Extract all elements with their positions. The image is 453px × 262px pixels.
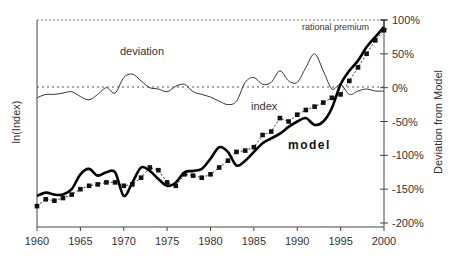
index-marker [321,100,326,105]
y-tick-label: -100% [392,149,424,161]
index-marker [269,129,274,134]
x-tick-label: 1970 [112,235,136,247]
index-marker [52,198,57,203]
index-marker [347,79,352,84]
index-marker [61,196,66,201]
index-marker [286,119,291,124]
y-tick-label: 0% [392,82,408,94]
index-marker [234,150,239,155]
plot-frame [37,20,384,227]
x-tick-label: 1990 [285,235,309,247]
y-tick-label: 50% [392,48,414,60]
index-marker [226,158,231,163]
index-marker [113,180,118,185]
index-marker [208,172,213,177]
x-tick-label: 1995 [328,235,352,247]
model-label: model [288,138,331,152]
rational-premium-label: rational premium [302,22,369,32]
index-marker [43,197,48,202]
x-tick-label: 1960 [25,235,49,247]
index-marker [312,104,317,109]
index-marker [35,204,40,209]
index-marker [260,133,265,138]
index-marker [356,65,361,70]
y-tick-label: 100% [392,14,420,26]
x-tick-label: 1975 [155,235,179,247]
index-marker [330,96,335,101]
index-line [37,30,384,206]
x-tick-label: 2000 [372,235,396,247]
x-tick-label: 1985 [242,235,266,247]
index-label: index [251,100,278,112]
series-layer [35,27,387,209]
right-axis-ticks: 100%50%0%-50%-100%-150%-200% [380,14,424,229]
left-axis-title: ln(Index) [10,101,22,144]
x-tick-label: 1980 [198,235,222,247]
model-line [37,27,384,196]
index-marker [69,192,74,197]
chart: 196019651970197519801985199019952000 100… [0,0,453,262]
index-marker [304,108,309,113]
index-marker [78,187,83,192]
right-axis-title: Deviation from Model [432,70,444,174]
index-marker [122,184,127,189]
index-marker [243,148,248,153]
index-marker [338,92,343,97]
x-axis-ticks: 196019651970197519801985199019952000 [25,227,396,247]
y-tick-label: -150% [392,183,424,195]
index-marker [104,180,109,185]
index-marker [156,168,161,173]
index-marker [364,52,369,57]
x-tick-label: 1965 [68,235,92,247]
index-marker [217,165,222,170]
index-marker [139,175,144,180]
index-marker [295,112,300,117]
index-marker [191,173,196,178]
index-marker [87,184,92,189]
deviation-label: deviation [120,45,164,57]
index-marker [278,116,283,121]
y-tick-label: -200% [392,217,424,229]
index-marker [200,175,205,180]
y-tick-label: -50% [392,116,418,128]
index-marker [95,182,100,187]
